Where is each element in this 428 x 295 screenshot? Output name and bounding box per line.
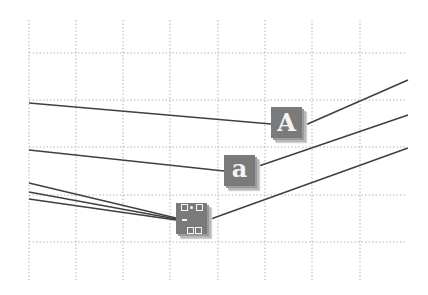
- keypad-symbols-node[interactable]: [176, 203, 207, 234]
- keypad-key: [181, 204, 188, 211]
- keypad-key: [196, 204, 203, 211]
- uppercase-letter-node[interactable]: A: [271, 107, 302, 138]
- connector-line: [303, 80, 408, 126]
- keypad-dot: [190, 206, 193, 209]
- uppercase-letter-icon: A: [277, 111, 296, 135]
- keypad-symbols-icon: [180, 203, 204, 234]
- connector-line: [29, 199, 176, 220]
- lowercase-letter-icon: a: [232, 157, 248, 181]
- lowercase-letter-node[interactable]: a: [224, 155, 255, 186]
- diagram-canvas: [0, 0, 428, 295]
- connector-line: [29, 183, 176, 218]
- connector-line: [29, 150, 224, 171]
- keypad-dash: [182, 219, 187, 221]
- grid: [29, 20, 407, 280]
- connector-line: [29, 103, 271, 124]
- keypad-key-pair: [187, 227, 202, 234]
- connector-line: [29, 192, 176, 219]
